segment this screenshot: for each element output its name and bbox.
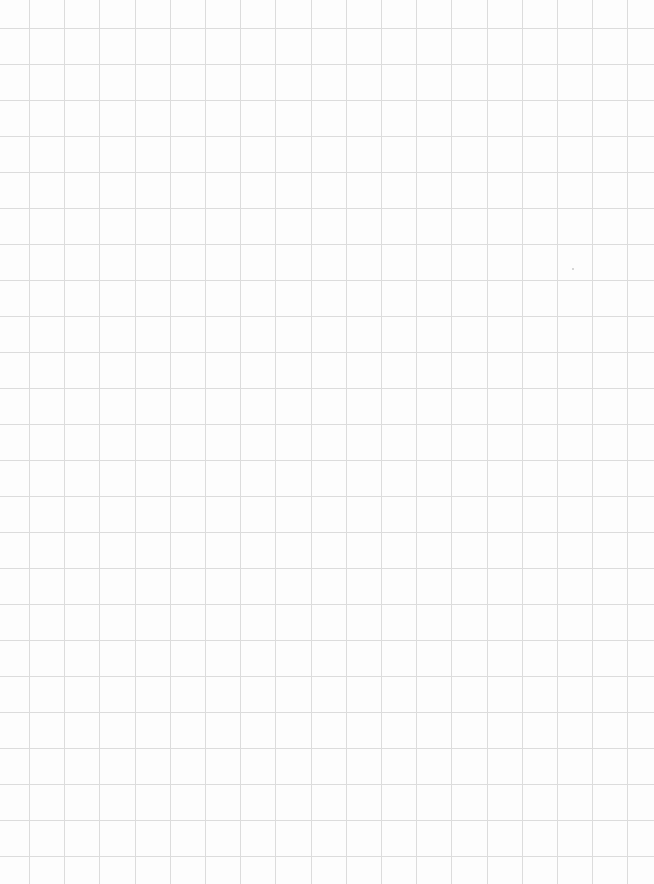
- paper-speck: [572, 268, 574, 270]
- grid-lines: [0, 0, 654, 884]
- grid-paper-sheet: [0, 0, 654, 884]
